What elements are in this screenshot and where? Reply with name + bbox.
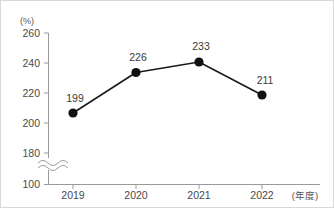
chart-plot-area: (%) 260 240 220 200 180 100 2019: [0, 0, 334, 208]
y-tick-label-240: 240: [22, 57, 40, 69]
data-label-2021: 233: [192, 40, 210, 52]
line-chart-figure: (%) 260 240 220 200 180 100 2019: [0, 0, 334, 208]
series-line-path: [73, 62, 262, 113]
x-tick-label-2019: 2019: [61, 189, 85, 201]
data-point-marker-2022: [257, 90, 266, 99]
data-point-marker-2020: [131, 68, 140, 77]
y-tick-label-100: 100: [22, 178, 40, 190]
x-axis-unit-label: (年度): [292, 190, 318, 201]
data-label-2020: 226: [129, 51, 147, 63]
data-point-marker-2021: [194, 57, 203, 66]
y-tick-label-200: 200: [22, 117, 40, 129]
data-point-marker-2019: [68, 108, 77, 117]
x-tick-label-2022: 2022: [250, 189, 274, 201]
y-tick-label-260: 260: [22, 27, 40, 39]
y-axis-break-symbol: [38, 161, 68, 171]
data-label-2019: 199: [66, 92, 84, 104]
x-tick-label-2020: 2020: [124, 189, 148, 201]
y-axis-unit-label: (%): [20, 16, 34, 26]
x-tick-label-2021: 2021: [187, 189, 211, 201]
y-tick-label-220: 220: [22, 87, 40, 99]
data-label-2022: 211: [257, 74, 274, 86]
y-tick-label-180: 180: [22, 147, 40, 159]
